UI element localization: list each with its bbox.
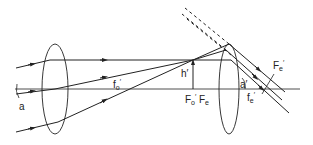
label-alpha-prime: a′ [240, 79, 248, 90]
label-alpha: a [19, 101, 25, 112]
label-f-e-prime: fe′ [247, 91, 256, 104]
virtual-ray-extensions [182, 8, 231, 55]
label-F-o-prime: Fo′ [185, 93, 197, 106]
label-F-e: Fe [199, 94, 209, 106]
alpha-arc [16, 84, 19, 98]
optics-diagram: a fo′ h′ Fo′ Fe a′ fe′ Fe′ [0, 0, 313, 145]
label-h-prime: h′ [181, 68, 189, 79]
label-F-e-prime: Fe′ [273, 59, 285, 72]
